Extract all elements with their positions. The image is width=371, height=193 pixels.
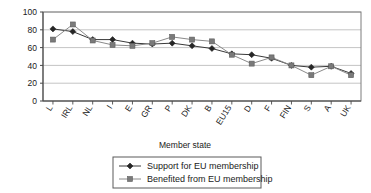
data-point-marker	[229, 52, 234, 57]
data-point-marker	[309, 73, 314, 78]
y-tick-label-40: 40	[28, 61, 38, 71]
data-point-marker	[209, 39, 214, 44]
y-tick-label-100: 100	[23, 7, 37, 17]
chart-container: 020406080100 LIRLNLIEGRPDKBEU15DFFINSAUK…	[0, 0, 371, 193]
chart-legend: Support for EU membershipBenefited from …	[113, 157, 273, 188]
data-point-marker	[150, 41, 155, 46]
data-point-marker	[70, 22, 75, 27]
data-point-marker	[269, 55, 274, 60]
data-point-marker	[90, 38, 95, 43]
data-point-marker	[349, 73, 354, 78]
data-point-marker	[110, 42, 115, 47]
data-point-marker	[289, 63, 294, 68]
data-point-marker	[170, 34, 175, 39]
eu-membership-line-chart: 020406080100 LIRLNLIEGRPDKBEU15DFFINSAUK…	[0, 0, 371, 193]
data-point-marker	[50, 37, 55, 42]
legend-label: Benefited from EU membership	[147, 174, 273, 184]
y-tick-label-80: 80	[28, 25, 38, 35]
y-tick-label-0: 0	[32, 96, 37, 106]
data-point-marker	[249, 61, 254, 66]
y-tick-label-20: 20	[28, 78, 38, 88]
data-point-marker	[190, 37, 195, 42]
data-point-marker	[329, 64, 334, 69]
x-axis-title: Member state	[159, 140, 211, 150]
square-marker-icon	[128, 177, 133, 182]
y-tick-label-60: 60	[28, 43, 38, 53]
legend-label: Support for EU membership	[147, 161, 259, 171]
data-point-marker	[130, 43, 135, 48]
